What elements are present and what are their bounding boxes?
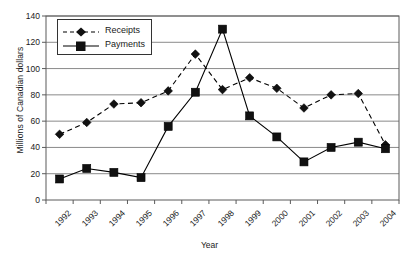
legend-label-receipts: Receipts <box>105 25 140 35</box>
legend-label-payments: Payments <box>105 39 145 49</box>
legend-item-payments: Payments <box>62 37 145 51</box>
line-chart: Millions of Canadian dollars Year 020406… <box>0 0 419 262</box>
legend-swatch-receipts <box>62 24 100 36</box>
legend-item-receipts: Receipts <box>62 23 145 37</box>
chart-legend: Receipts Payments <box>57 19 152 55</box>
legend-swatch-payments <box>62 38 100 50</box>
